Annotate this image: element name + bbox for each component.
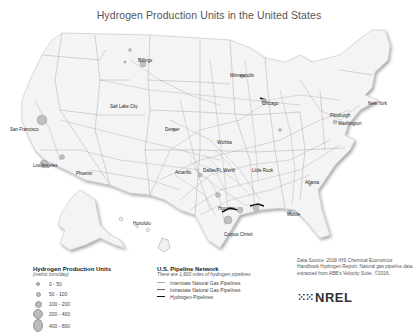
legend-item: Intrastate Natural Gas Pipelines bbox=[157, 286, 251, 293]
city-label: Minneapolis bbox=[230, 73, 254, 78]
city-label: New York bbox=[368, 101, 387, 106]
city-label: Wichita bbox=[217, 140, 232, 145]
legend-item: 400 - 800 bbox=[33, 319, 111, 332]
city-label: Pittsburgh bbox=[330, 113, 350, 118]
production-legend: Hydrogen Production Units (metric tons/d… bbox=[33, 266, 111, 332]
bubble-icon bbox=[33, 319, 43, 332]
bubble-icon bbox=[33, 309, 43, 319]
pipeline-legend-subtitle: There are 1,600 miles of hydrogen pipeli… bbox=[157, 272, 251, 277]
bubble-icon bbox=[35, 301, 42, 308]
hydrogen-line-icon bbox=[157, 296, 165, 297]
city-label: Phoenix bbox=[76, 171, 92, 176]
city-label: Chicago bbox=[262, 101, 279, 106]
city-label: Dallas/Ft. Worth bbox=[203, 168, 235, 173]
legend-item: 50 - 100 bbox=[33, 289, 111, 299]
city-label: Little Rock bbox=[252, 168, 273, 173]
pipeline-legend: U.S. Pipeline Network There are 1,600 mi… bbox=[157, 266, 251, 300]
nrel-mark-icon: ⁙⁙ bbox=[297, 291, 313, 304]
city-label: Washington bbox=[338, 121, 362, 126]
intrastate-line-icon bbox=[157, 289, 165, 290]
city-label: San Francisco bbox=[10, 127, 39, 132]
city-label: Amarillo bbox=[175, 170, 191, 175]
city-label: Salt Lake City bbox=[110, 104, 138, 109]
legend-item: 100 - 200 bbox=[33, 299, 111, 309]
city-label: Denver bbox=[165, 127, 180, 132]
data-source-note: Data Source: 2018 IHS Chemical Economics… bbox=[297, 258, 415, 277]
legend-item: Interstate Natural Gas Pipelines bbox=[157, 279, 251, 286]
city-label: Houston bbox=[218, 206, 235, 211]
city-label: Atlanta bbox=[305, 180, 319, 185]
legend-item: Hydrogen Pipelines bbox=[157, 293, 251, 300]
city-label: Honolulu bbox=[133, 221, 151, 226]
legend-item: 200 - 400 bbox=[33, 309, 111, 319]
legend-item: 0 - 50 bbox=[33, 279, 111, 289]
nrel-logo: ⁙⁙ NREL bbox=[297, 290, 352, 305]
interstate-line-icon bbox=[157, 282, 165, 283]
city-label: Mobile bbox=[287, 212, 300, 217]
bubble-icon bbox=[36, 292, 41, 297]
alaska-shape bbox=[58, 190, 125, 250]
city-label: Billings bbox=[138, 58, 152, 63]
nrel-logo-text: NREL bbox=[315, 290, 352, 305]
bubble-icon bbox=[36, 282, 40, 286]
city-label: Los Angeles bbox=[33, 163, 58, 168]
production-legend-subtitle: (metric tons/day) bbox=[33, 272, 111, 277]
city-label: Corpus Christi bbox=[224, 232, 253, 237]
